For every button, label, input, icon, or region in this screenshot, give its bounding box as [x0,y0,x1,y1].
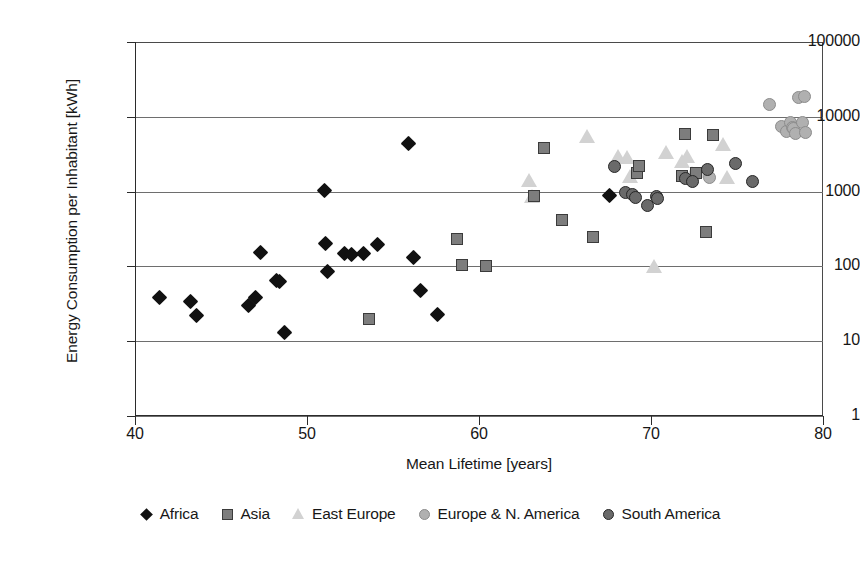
legend-label-south-america: South America [621,505,720,523]
data-point-asia-7 [587,231,599,243]
legend-label-europe-n-america: Europe & N. America [438,505,580,523]
data-point-asia-1 [451,233,463,245]
data-point-asia-9 [633,160,645,172]
y-tick-10000 [127,117,136,118]
data-point-europe-n-america-10 [798,90,811,103]
x-tick-label-80: 80 [788,425,858,443]
legend-label-asia: Asia [240,505,270,523]
y-tick-label-10: 10 [738,331,860,349]
y-axis-title: Energy Consumption per Inhabitant [kWh] [63,21,81,421]
x-tick-label-40: 40 [100,425,170,443]
data-point-asia-5 [538,142,550,154]
legend-item-asia[interactable]: Asia [220,505,270,523]
y-tick-100 [127,266,136,267]
x-tick-label-50: 50 [272,425,342,443]
legend-marker-shape [140,508,153,521]
data-point-asia-6 [556,214,568,226]
gridline-1000 [135,192,823,193]
data-point-east-europe-7 [658,145,674,159]
data-point-east-europe-0 [521,173,537,187]
legend-marker-dark-circle-icon [601,507,615,521]
data-point-south-america-6 [651,192,664,205]
data-point-east-europe-6 [646,259,662,273]
data-point-south-america-10 [729,157,742,170]
legend-item-south-america[interactable]: South America [601,505,720,523]
legend-marker-diamond-icon [140,507,154,521]
data-point-asia-13 [700,226,712,238]
data-point-east-europe-2 [579,129,595,143]
scatter-chart-figure: Energy Consumption per Inhabitant [kWh] … [0,0,860,566]
y-tick-1000 [127,192,136,193]
data-point-asia-3 [480,260,492,272]
legend-marker-shape [292,508,304,519]
legend-item-africa[interactable]: Africa [140,505,199,523]
legend-item-europe-n-america[interactable]: Europe & N. America [418,505,580,523]
data-point-asia-2 [456,259,468,271]
data-point-asia-4 [528,190,540,202]
gridline-10 [135,341,823,342]
x-tick-50 [307,416,308,425]
data-point-asia-0 [363,313,375,325]
data-point-east-europe-9 [679,149,695,163]
x-axis-title: Mean Lifetime [years] [135,455,823,473]
data-point-east-europe-13 [719,170,735,184]
legend-label-east-europe: East Europe [312,505,396,523]
x-tick-80 [823,416,824,425]
legend-marker-circle-icon [418,507,432,521]
legend-marker-shape [222,509,233,520]
legend-marker-triangle-icon [292,507,306,521]
chart-legend: AfricaAsiaEast EuropeEurope & N. America… [0,505,860,523]
x-tick-70 [651,416,652,425]
x-tick-60 [479,416,480,425]
x-tick-label-70: 70 [616,425,686,443]
y-tick-100000 [127,42,136,43]
y-tick-label-100000: 100000 [738,32,860,50]
legend-marker-square-icon [220,507,234,521]
legend-label-africa: Africa [160,505,199,523]
y-tick-10 [127,341,136,342]
data-point-asia-14 [707,129,719,141]
gridline-10000 [135,117,823,118]
plot-area [135,42,823,416]
y-tick-label-1: 1 [738,406,860,424]
y-tick-label-100: 100 [738,256,860,274]
x-tick-40 [135,416,136,425]
legend-marker-shape [603,509,614,520]
data-point-asia-11 [679,128,691,140]
x-tick-label-60: 60 [444,425,514,443]
legend-item-east-europe[interactable]: East Europe [292,505,396,523]
legend-marker-shape [419,509,430,520]
